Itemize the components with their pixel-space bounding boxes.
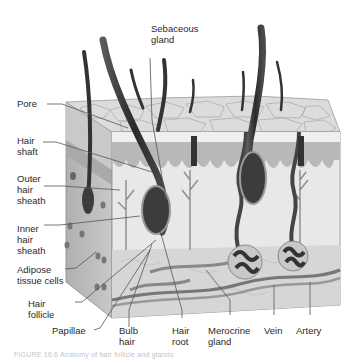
figure-caption: FIGURE 16.6 Anatomy of hair follicle and… [14, 351, 174, 358]
label-artery: Artery [296, 325, 321, 336]
label-outer-hair-sheath: Outer hair sheath [17, 173, 46, 206]
label-adipose-tissue-cells: Adipose tissue cells [17, 264, 63, 286]
label-merocrine-gland: Merocrine gland [208, 325, 250, 347]
label-papillae: Papillae [52, 325, 86, 336]
label-sebaceous-gland: Sebaceous gland [151, 23, 199, 45]
label-inner-hair-sheath: Inner hair sheath [17, 223, 46, 256]
block-top-surface [66, 96, 340, 132]
label-hair-follicle: Hair follicle [28, 298, 54, 320]
label-hair-shaft: Hair shaft [17, 135, 38, 157]
label-hair-root: Hair root [172, 325, 189, 347]
label-pore: Pore [17, 98, 37, 109]
label-vein: Vein [264, 325, 283, 336]
label-bulb-hair: Bulb hair [119, 325, 138, 347]
